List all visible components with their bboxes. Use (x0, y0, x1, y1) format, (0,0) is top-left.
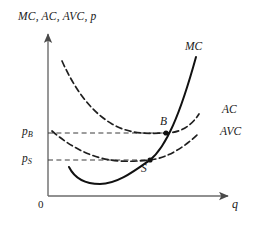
average-cost-label: AC (222, 104, 237, 116)
marginal-cost-curve (69, 57, 196, 184)
origin-label: 0 (38, 199, 44, 210)
price-break-even-label: pB (22, 126, 33, 140)
break-even-point-marker (163, 130, 168, 135)
cost-curves-figure: MC, AC, AVC, p q 0 MC AC AVC B S pB pS (0, 0, 261, 230)
average-variable-cost-label: AVC (220, 126, 241, 138)
average-cost-curve (62, 61, 199, 133)
y-axis-label: MC, AC, AVC, p (18, 11, 96, 23)
price-shutdown-subscript: S (28, 157, 32, 166)
break-even-point-label: B (160, 116, 167, 128)
marginal-cost-label: MC (185, 41, 202, 53)
shutdown-point-label: S (141, 163, 147, 175)
x-axis-label: q (232, 198, 238, 210)
price-break-even-subscript: B (28, 130, 33, 139)
shutdown-point-marker (147, 157, 152, 162)
price-shutdown-label: pS (22, 153, 32, 167)
average-variable-cost-curve (52, 131, 199, 161)
